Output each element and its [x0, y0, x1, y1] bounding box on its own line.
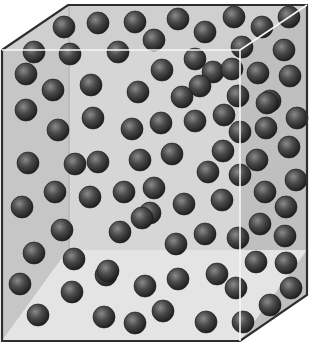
particle-sphere [184, 110, 206, 132]
particle-sphere [143, 29, 165, 51]
particle-sphere [121, 118, 143, 140]
particle-sphere [27, 304, 49, 326]
particle-sphere [286, 107, 308, 129]
particle-sphere [107, 41, 129, 63]
particle-sphere [280, 277, 302, 299]
particle-sphere [53, 16, 75, 38]
particle-sphere [167, 268, 189, 290]
particle-box-illustration [0, 0, 324, 360]
particle-sphere [129, 149, 151, 171]
particle-sphere [231, 36, 253, 58]
particle-sphere [44, 181, 66, 203]
particle-sphere [143, 177, 165, 199]
particle-sphere [113, 181, 135, 203]
particle-sphere [211, 189, 233, 211]
particle-sphere [275, 196, 297, 218]
particle-sphere [249, 213, 271, 235]
particle-sphere [245, 251, 267, 273]
particle-sphere [17, 152, 39, 174]
particle-sphere [212, 140, 234, 162]
particle-sphere [82, 107, 104, 129]
particle-sphere [15, 63, 37, 85]
particle-sphere [274, 225, 296, 247]
particle-sphere [152, 300, 174, 322]
particle-sphere [15, 99, 37, 121]
particle-sphere [93, 306, 115, 328]
particle-sphere [131, 207, 153, 229]
particle-sphere [87, 12, 109, 34]
particle-sphere [11, 196, 33, 218]
particle-sphere [127, 81, 149, 103]
particle-sphere [285, 169, 307, 191]
particle-sphere [63, 248, 85, 270]
particle-sphere [23, 41, 45, 63]
particle-sphere [161, 143, 183, 165]
particle-sphere [124, 312, 146, 334]
particle-sphere [194, 223, 216, 245]
particle-sphere [87, 151, 109, 173]
particle-sphere [232, 311, 254, 333]
particle-sphere [184, 48, 206, 70]
particle-sphere [275, 252, 297, 274]
particle-sphere [195, 311, 217, 333]
particle-sphere [47, 119, 69, 141]
particle-sphere [246, 149, 268, 171]
particle-sphere [279, 65, 301, 87]
particle-sphere [97, 260, 119, 282]
particle-sphere [256, 92, 278, 114]
particle-sphere [134, 275, 156, 297]
particle-sphere [165, 233, 187, 255]
particle-sphere [278, 136, 300, 158]
particle-sphere [259, 294, 281, 316]
particle-sphere [173, 193, 195, 215]
particle-sphere [225, 277, 247, 299]
particle-sphere [151, 59, 173, 81]
particle-sphere [255, 117, 277, 139]
particle-sphere [61, 281, 83, 303]
particle-sphere [227, 85, 249, 107]
particle-sphere [124, 11, 146, 33]
particle-sphere [9, 273, 31, 295]
particle-sphere [223, 6, 245, 28]
particle-sphere [213, 104, 235, 126]
particle-sphere [167, 8, 189, 30]
particle-sphere [79, 186, 101, 208]
particle-sphere [59, 43, 81, 65]
particle-sphere [150, 112, 172, 134]
particle-sphere [206, 263, 228, 285]
particle-sphere [227, 227, 249, 249]
particle-sphere [197, 161, 219, 183]
particle-sphere [64, 153, 86, 175]
particle-sphere [42, 79, 64, 101]
particle-sphere [194, 21, 216, 43]
particle-sphere [23, 242, 45, 264]
particle-sphere [254, 181, 276, 203]
particle-sphere [247, 62, 269, 84]
particle-sphere [51, 219, 73, 241]
particle-sphere [80, 74, 102, 96]
particle-sphere [171, 86, 193, 108]
particle-sphere [273, 39, 295, 61]
particle-sphere [109, 221, 131, 243]
